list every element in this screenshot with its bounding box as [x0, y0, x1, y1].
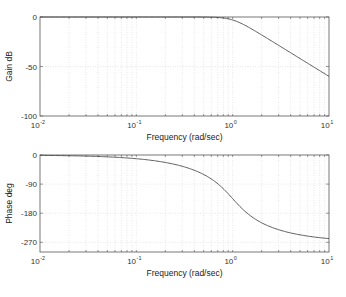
phase-plot: 0-90-180-27010-210-1100101Frequency (rad… [4, 151, 333, 278]
y-tick-label: -270 [21, 238, 38, 247]
x-tick-label: 10-1 [127, 119, 141, 130]
y-tick-label: 0 [33, 13, 38, 22]
y-tick-label: -180 [21, 209, 38, 218]
y-tick-label: 0 [33, 151, 38, 160]
x-axis-label: Frequency (rad/sec) [146, 268, 222, 278]
x-tick-label: 10-2 [31, 255, 45, 266]
x-tick-label: 100 [224, 119, 236, 130]
x-tick-label: 101 [321, 119, 333, 130]
y-tick-label: -100 [21, 112, 38, 121]
phase-curve [40, 155, 329, 238]
y-tick-label: -50 [25, 63, 37, 72]
y-axis-label: Phase deg [4, 183, 14, 224]
x-tick-label: 10-1 [127, 255, 141, 266]
y-axis-label: Gain dB [4, 51, 14, 82]
x-tick-label: 101 [321, 255, 333, 266]
bode-plot: 0-50-10010-210-1100101Frequency (rad/sec… [0, 0, 346, 297]
axes-frame [40, 155, 329, 252]
x-tick-label: 10-2 [31, 119, 45, 130]
gain-curve [40, 17, 329, 76]
x-axis-label: Frequency (rad/sec) [146, 132, 222, 142]
gain-plot: 0-50-10010-210-1100101Frequency (rad/sec… [4, 13, 333, 142]
y-tick-label: -90 [25, 180, 37, 189]
x-tick-label: 100 [224, 255, 236, 266]
